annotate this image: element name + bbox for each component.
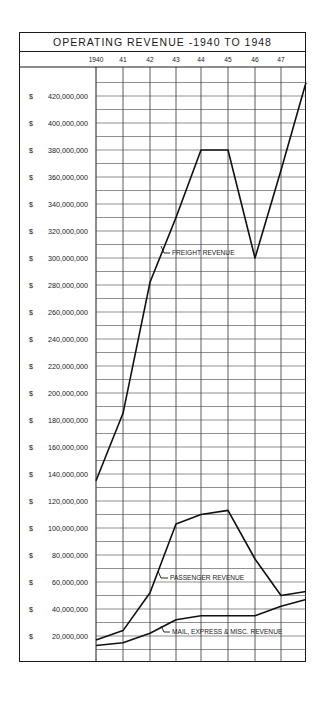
svg-text:380,000,000: 380,000,000 xyxy=(48,146,88,155)
svg-text:44: 44 xyxy=(197,56,205,63)
x-axis-labels: 194041424344454647 xyxy=(89,56,285,63)
svg-text:$: $ xyxy=(29,92,33,101)
svg-text:$: $ xyxy=(29,173,33,182)
svg-text:40,000,000: 40,000,000 xyxy=(52,605,88,614)
svg-text:$: $ xyxy=(29,227,33,236)
svg-text:$: $ xyxy=(29,497,33,506)
svg-text:280,000,000: 280,000,000 xyxy=(48,281,88,290)
svg-text:$: $ xyxy=(29,335,33,344)
svg-text:240,000,000: 240,000,000 xyxy=(48,335,88,344)
svg-text:$: $ xyxy=(29,389,33,398)
svg-text:$: $ xyxy=(29,632,33,641)
svg-text:$: $ xyxy=(29,605,33,614)
svg-text:200,000,000: 200,000,000 xyxy=(48,389,88,398)
svg-text:41: 41 xyxy=(119,56,127,63)
svg-text:$: $ xyxy=(29,308,33,317)
svg-text:120,000,000: 120,000,000 xyxy=(48,497,88,506)
svg-text:180,000,000: 180,000,000 xyxy=(48,416,88,425)
svg-text:360,000,000: 360,000,000 xyxy=(48,173,88,182)
svg-text:$: $ xyxy=(29,200,33,209)
y-axis-labels: $420,000,000$400,000,000$380,000,000$360… xyxy=(29,92,88,641)
svg-text:$: $ xyxy=(29,281,33,290)
svg-text:$: $ xyxy=(29,416,33,425)
line-chart: $420,000,000$400,000,000$380,000,000$360… xyxy=(0,0,323,702)
svg-text:$: $ xyxy=(29,578,33,587)
svg-text:320,000,000: 320,000,000 xyxy=(48,227,88,236)
svg-text:160,000,000: 160,000,000 xyxy=(48,443,88,452)
svg-text:$: $ xyxy=(29,254,33,263)
svg-text:220,000,000: 220,000,000 xyxy=(48,362,88,371)
svg-text:1940: 1940 xyxy=(89,56,104,63)
svg-text:MAIL, EXPRESS & MISC. REVENUE: MAIL, EXPRESS & MISC. REVENUE xyxy=(172,628,283,635)
series-annotations: FREIGHT REVENUEPASSENGER REVENUEMAIL, EX… xyxy=(158,246,283,635)
svg-text:340,000,000: 340,000,000 xyxy=(48,200,88,209)
svg-text:47: 47 xyxy=(277,56,285,63)
svg-text:$: $ xyxy=(29,443,33,452)
svg-text:260,000,000: 260,000,000 xyxy=(48,308,88,317)
svg-text:80,000,000: 80,000,000 xyxy=(52,551,88,560)
svg-text:$: $ xyxy=(29,119,33,128)
svg-text:42: 42 xyxy=(146,56,154,63)
svg-text:20,000,000: 20,000,000 xyxy=(52,632,88,641)
svg-text:60,000,000: 60,000,000 xyxy=(52,578,88,587)
svg-text:46: 46 xyxy=(251,56,259,63)
svg-text:140,000,000: 140,000,000 xyxy=(48,470,88,479)
svg-text:$: $ xyxy=(29,524,33,533)
svg-text:45: 45 xyxy=(224,56,232,63)
svg-text:$: $ xyxy=(29,362,33,371)
svg-text:$: $ xyxy=(29,470,33,479)
svg-text:$: $ xyxy=(29,551,33,560)
svg-text:PASSENGER REVENUE: PASSENGER REVENUE xyxy=(170,574,245,581)
svg-text:FREIGHT REVENUE: FREIGHT REVENUE xyxy=(172,249,235,256)
svg-text:100,000,000: 100,000,000 xyxy=(48,524,88,533)
svg-text:420,000,000: 420,000,000 xyxy=(48,92,88,101)
svg-text:400,000,000: 400,000,000 xyxy=(48,119,88,128)
svg-text:300,000,000: 300,000,000 xyxy=(48,254,88,263)
svg-text:$: $ xyxy=(29,146,33,155)
svg-text:43: 43 xyxy=(172,56,180,63)
